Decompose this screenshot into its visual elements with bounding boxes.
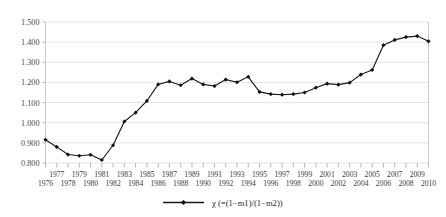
x-tick-marks-group	[46, 163, 429, 168]
x-axis-tick-label: 1991	[207, 170, 222, 179]
x-axis-tick-label: 1981	[94, 170, 109, 179]
data-point-marker	[167, 79, 171, 83]
x-axis-tick-label: 2006	[376, 179, 391, 188]
data-point-marker	[404, 35, 408, 39]
data-point-marker	[381, 43, 385, 47]
x-axis-tick-label: 1993	[229, 170, 244, 179]
x-axis-tick-label: 1986	[151, 179, 166, 188]
x-axis-tick-label: 2002	[331, 179, 346, 188]
data-point-marker	[336, 83, 340, 87]
x-axis-tick-label: 2008	[398, 179, 413, 188]
y-axis-tick-label: 1.500	[21, 18, 39, 27]
x-axis-tick-label: 2000	[308, 179, 323, 188]
data-point-marker	[415, 34, 419, 38]
data-point-marker	[77, 154, 81, 158]
axis-frame	[46, 22, 429, 163]
data-point-marker	[314, 86, 318, 90]
y-axis-tick-label: 0.800	[21, 159, 39, 168]
x-axis-tick-label: 1999	[297, 170, 312, 179]
x-axis-tick-label: 1983	[117, 170, 132, 179]
x-axis-tick-label: 1995	[252, 170, 267, 179]
y-axis-tick-label: 1.000	[21, 119, 39, 128]
data-point-marker	[235, 80, 239, 84]
x-axis-tick-label: 1980	[83, 179, 98, 188]
data-point-marker	[370, 68, 374, 72]
x-axis-tick-label: 2009	[410, 170, 425, 179]
data-point-marker	[269, 92, 273, 96]
y-axis-tick-label: 1.100	[21, 99, 39, 108]
x-axis-tick-label: 2003	[342, 170, 357, 179]
line-chart-plot: 1.5001.4001.3001.2001.1001.0000.9000.800…	[0, 0, 446, 217]
x-axis-tick-label: 1988	[173, 179, 188, 188]
x-axis-tick-label: 1996	[263, 179, 278, 188]
data-point-marker	[302, 90, 306, 94]
series-line	[46, 36, 429, 160]
x-axis-tick-label: 1998	[286, 179, 301, 188]
gridlines-group	[46, 22, 429, 163]
x-axis-tick-label: 1990	[196, 179, 211, 188]
x-axis-tick-label: 2004	[353, 179, 368, 188]
x-axis-tick-label: 1987	[162, 170, 177, 179]
legend-label: χ (=(1−m1)/(1−m2))	[211, 198, 283, 208]
x-axis-tick-label: 1997	[274, 170, 289, 179]
x-axis-tick-label: 1989	[184, 170, 199, 179]
data-point-marker	[88, 153, 92, 157]
data-point-marker	[280, 93, 284, 97]
x-axis-tick-label: 1984	[128, 179, 143, 188]
x-axis-tick-label: 2007	[387, 170, 402, 179]
x-axis-tick-label: 1979	[72, 170, 87, 179]
y-tick-marks-group	[43, 22, 46, 163]
data-point-marker	[393, 38, 397, 42]
x-axis-tick-label: 1978	[60, 179, 75, 188]
data-point-marker	[291, 92, 295, 96]
chart-legend: χ (=(1−m1)/(1−m2))	[163, 198, 283, 208]
data-point-marker	[201, 82, 205, 86]
x-axis-tick-label: 1992	[218, 179, 233, 188]
x-axis-tick-label: 1977	[49, 170, 64, 179]
x-axis-tick-label: 2010	[421, 179, 436, 188]
y-axis-tick-label: 1.400	[21, 38, 39, 47]
chart-container: 1.5001.4001.3001.2001.1001.0000.9000.800…	[0, 0, 446, 217]
y-axis-tick-label: 1.300	[21, 58, 39, 67]
y-axis-tick-label: 0.900	[21, 139, 39, 148]
y-axis-tick-label: 1.200	[21, 78, 39, 87]
x-axis-tick-label: 1985	[139, 170, 154, 179]
x-axis-tick-label: 1982	[105, 179, 120, 188]
data-point-marker	[426, 39, 430, 43]
x-axis-labels-group: 1976197719781979198019811982198319841985…	[38, 170, 436, 188]
x-axis-tick-label: 1976	[38, 179, 53, 188]
legend-marker-swatch	[181, 200, 186, 205]
x-axis-tick-label: 2001	[320, 170, 335, 179]
x-axis-tick-label: 1994	[241, 179, 256, 188]
y-axis-labels-group: 1.5001.4001.3001.2001.1001.0000.9000.800	[21, 18, 39, 168]
x-axis-tick-label: 2005	[365, 170, 380, 179]
